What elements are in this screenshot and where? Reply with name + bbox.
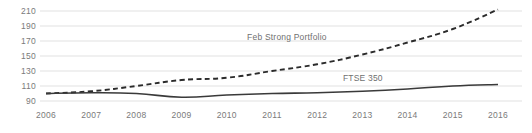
x-axis-tick-label: 2010 xyxy=(207,110,247,120)
x-axis-tick-label: 2011 xyxy=(252,110,292,120)
x-axis-tick-label: 2012 xyxy=(297,110,337,120)
x-axis-tick-label: 2015 xyxy=(433,110,473,120)
x-axis-tick-label: 2008 xyxy=(116,110,156,120)
x-axis-tick-label: 2016 xyxy=(478,110,518,120)
gridlines xyxy=(40,11,522,101)
x-axis-tick-label: 2014 xyxy=(388,110,428,120)
series-label-feb-strong-portfolio: Feb Strong Portfolio xyxy=(247,32,327,42)
x-axis-tick-label: 2013 xyxy=(342,110,382,120)
line-chart: 21019017015013011090 2006200720082009201… xyxy=(0,0,532,133)
x-axis-tick-label: 2007 xyxy=(71,110,111,120)
y-axis-tick-label: 150 xyxy=(6,51,36,61)
y-axis-tick-label: 130 xyxy=(6,66,36,76)
x-axis-tick-label: 2009 xyxy=(162,110,202,120)
series-label-ftse-350: FTSE 350 xyxy=(343,73,383,83)
x-axis-tick-label: 2006 xyxy=(26,110,66,120)
y-axis-tick-label: 110 xyxy=(6,81,36,91)
series-line-feb-strong-portfolio xyxy=(46,10,498,94)
y-axis-tick-label: 190 xyxy=(6,21,36,31)
series-line-ftse-350 xyxy=(46,85,498,98)
y-axis-tick-label: 90 xyxy=(6,96,36,106)
y-axis-tick-label: 170 xyxy=(6,36,36,46)
y-axis-tick-label: 210 xyxy=(6,6,36,16)
series-layer xyxy=(46,10,498,98)
